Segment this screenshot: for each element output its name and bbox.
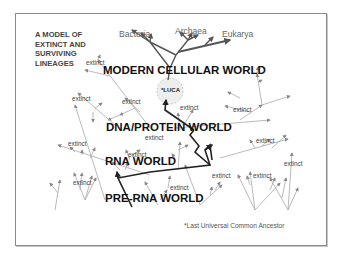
label-modern-cellular-world: MODERN CELLULAR WORLD [103,64,266,76]
extinct-label: extinct [73,179,91,186]
extinct-label: extinct [256,137,274,144]
extinct-label: extinct [284,160,302,167]
domain-archaea: Archaea [175,26,207,36]
footnote: *Last Universal Common Ancestor [184,222,284,229]
extinct-label: extinct [128,151,146,158]
label-pre-rna-world: PRE-RNA WORLD [105,192,204,204]
extinct-label: extinct [233,106,251,113]
label-luca: *LUCA [161,87,180,93]
label-dna-protein-world: DNA/PROTEIN WORLD [106,121,232,133]
extinct-label: extinct [72,95,90,102]
domain-bacteria: Bacteria [119,29,150,39]
extinct-label: extinct [180,104,198,111]
extinct-label: extinct [68,140,86,147]
extinct-label: extinct [170,184,188,191]
extinct-label: extinct [212,172,230,179]
domain-eukarya: Eukarya [222,29,253,39]
extinct-label: extinct [122,98,140,105]
extinct-label: extinct [145,134,163,141]
extinct-label: extinct [253,172,271,179]
extinct-label: extinct [86,59,104,66]
